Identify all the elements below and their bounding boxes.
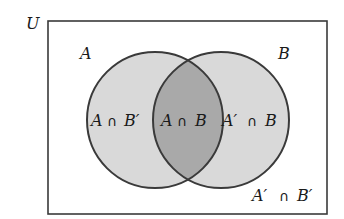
svg-text:B: B bbox=[264, 111, 277, 130]
universe-label: U bbox=[26, 14, 40, 33]
svg-text:B′: B′ bbox=[296, 186, 313, 205]
region-a-only-label: A ∩ B′ bbox=[89, 111, 140, 130]
set-a-label: A bbox=[78, 44, 92, 63]
svg-text:∩: ∩ bbox=[177, 113, 187, 129]
region-neither-label: A′ ∩ B′ bbox=[250, 186, 313, 205]
region-b-only-label: A′ ∩ B bbox=[220, 111, 277, 130]
svg-text:A′: A′ bbox=[220, 111, 238, 130]
svg-text:∩: ∩ bbox=[247, 113, 257, 129]
svg-text:B′: B′ bbox=[123, 111, 140, 130]
region-both-label: A ∩ B bbox=[159, 111, 207, 130]
svg-text:B: B bbox=[194, 111, 207, 130]
set-b-label: B bbox=[277, 44, 290, 63]
svg-text:A′: A′ bbox=[250, 186, 268, 205]
svg-text:∩: ∩ bbox=[279, 188, 289, 204]
venn-diagram: U A B A ∩ B′ A ∩ B A′ ∩ B A′ ∩ B′ bbox=[0, 0, 344, 219]
svg-text:∩: ∩ bbox=[107, 113, 117, 129]
svg-text:A: A bbox=[159, 111, 173, 130]
svg-text:A: A bbox=[89, 111, 103, 130]
